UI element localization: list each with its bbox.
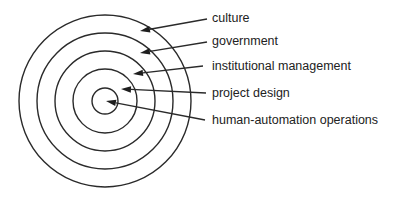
- label-project-design: project design: [212, 86, 290, 100]
- ring-culture: [19, 15, 191, 187]
- ring-project-design: [73, 69, 137, 133]
- arrow-line: [131, 89, 206, 93]
- arrowhead-icon: [121, 86, 131, 92]
- arrow-line: [116, 103, 205, 120]
- arrowhead-icon: [133, 70, 143, 76]
- rings-group: [19, 15, 191, 187]
- label-government: government: [212, 34, 278, 48]
- concentric-layers-diagram: [0, 0, 394, 199]
- ring-institutional-management: [55, 51, 155, 151]
- label-institutional-management: institutional management: [212, 59, 351, 73]
- ring-government: [37, 33, 173, 169]
- arrow-line: [143, 66, 203, 73]
- arrowhead-icon: [106, 100, 116, 106]
- arrow-line: [150, 19, 207, 29]
- label-culture: culture: [212, 11, 250, 25]
- arrow-line: [150, 42, 207, 51]
- arrowhead-icon: [140, 48, 150, 54]
- arrowhead-icon: [140, 26, 150, 32]
- label-human-automation-operations: human-automation operations: [212, 113, 378, 127]
- arrows-group: [106, 19, 207, 120]
